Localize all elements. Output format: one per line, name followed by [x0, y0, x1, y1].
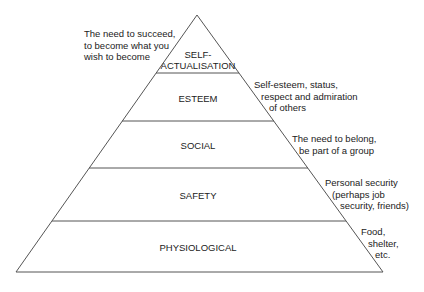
note-line: The need to belong, — [292, 133, 377, 145]
note-line: shelter, — [361, 238, 399, 250]
level-esteem-label: ESTEEM — [148, 93, 248, 104]
note-line: to become what you — [84, 40, 175, 52]
note-safety: Personal security (perhaps job security,… — [325, 177, 409, 212]
note-line: The need to succeed, — [84, 28, 175, 40]
level-physiological-label: PHYSIOLOGICAL — [138, 242, 258, 253]
level-social-label: SOCIAL — [148, 140, 248, 151]
note-line: (perhaps job — [325, 189, 409, 201]
note-line: wish to become — [84, 51, 175, 63]
note-line: Personal security — [325, 177, 409, 189]
note-line: Self-esteem, status, — [254, 79, 358, 91]
level-safety-label: SAFETY — [148, 190, 248, 201]
note-line: of others — [254, 102, 358, 114]
note-esteem: Self-esteem, status, respect and admirat… — [254, 79, 358, 114]
note-self-actualisation: The need to succeed, to become what you … — [84, 28, 175, 63]
note-social: The need to belong, be part of a group — [292, 133, 377, 156]
note-physiological: Food, shelter, etc. — [361, 226, 399, 261]
note-line: be part of a group — [292, 145, 377, 157]
note-line: Food, — [361, 226, 399, 238]
note-line: security, friends) — [325, 200, 409, 212]
note-line: respect and admiration — [254, 91, 358, 103]
note-line: etc. — [361, 249, 399, 261]
